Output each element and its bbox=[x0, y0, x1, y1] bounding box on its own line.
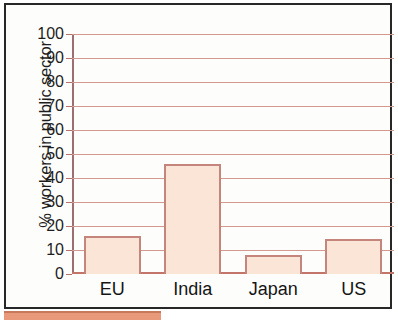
y-tick-mark-20 bbox=[66, 226, 72, 227]
x-axis-label-japan: Japan bbox=[249, 279, 298, 300]
gridline-20 bbox=[72, 226, 394, 227]
gridline-80 bbox=[72, 82, 394, 83]
y-tick-label-80: 80 bbox=[46, 73, 64, 91]
y-tick-label-50: 50 bbox=[46, 145, 64, 163]
bar-chart: % workers in public sector 0102030405060… bbox=[6, 5, 390, 307]
bar-india bbox=[164, 164, 221, 274]
x-axis-label-us: US bbox=[341, 279, 366, 300]
y-tick-label-20: 20 bbox=[46, 217, 64, 235]
figure-frame: % workers in public sector 0102030405060… bbox=[4, 3, 392, 309]
y-tick-mark-0 bbox=[66, 274, 72, 275]
y-tick-label-60: 60 bbox=[46, 121, 64, 139]
bar-eu bbox=[84, 236, 141, 274]
y-tick-mark-40 bbox=[66, 178, 72, 179]
gridline-30 bbox=[72, 202, 394, 203]
x-axis-label-eu: EU bbox=[100, 279, 125, 300]
y-tick-label-30: 30 bbox=[46, 193, 64, 211]
gridline-100 bbox=[72, 34, 394, 35]
gridline-90 bbox=[72, 58, 394, 59]
y-tick-mark-60 bbox=[66, 130, 72, 131]
y-tick-mark-70 bbox=[66, 106, 72, 107]
plot-area: 0102030405060708090100 EUIndiaJapanUS bbox=[72, 34, 394, 274]
y-tick-mark-80 bbox=[66, 82, 72, 83]
y-tick-label-90: 90 bbox=[46, 49, 64, 67]
gridline-40 bbox=[72, 178, 394, 179]
x-axis-label-india: India bbox=[173, 279, 212, 300]
bottom-rule bbox=[4, 313, 161, 320]
y-tick-label-100: 100 bbox=[37, 25, 64, 43]
bar-japan bbox=[245, 255, 302, 274]
gridline-60 bbox=[72, 130, 394, 131]
y-tick-label-70: 70 bbox=[46, 97, 64, 115]
y-tick-mark-90 bbox=[66, 58, 72, 59]
y-tick-mark-50 bbox=[66, 154, 72, 155]
bar-us bbox=[325, 239, 382, 274]
y-tick-mark-30 bbox=[66, 202, 72, 203]
y-tick-mark-100 bbox=[66, 34, 72, 35]
y-tick-label-0: 0 bbox=[55, 265, 64, 283]
gridline-50 bbox=[72, 154, 394, 155]
gridline-70 bbox=[72, 106, 394, 107]
y-tick-mark-10 bbox=[66, 250, 72, 251]
y-tick-label-10: 10 bbox=[46, 241, 64, 259]
y-tick-label-40: 40 bbox=[46, 169, 64, 187]
